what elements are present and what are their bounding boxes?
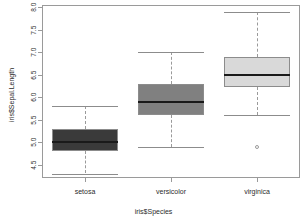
whisker-upper-versicolor [171, 52, 172, 83]
y-tick-mark [38, 52, 42, 53]
x-axis-title: iris$Species [0, 208, 307, 215]
whisker-upper-virginica [257, 12, 258, 57]
y-tick-mark [38, 30, 42, 31]
y-tick-label: 7.5 [31, 21, 38, 39]
y-tick-label: 5.5 [31, 111, 38, 129]
cap-lower-setosa [52, 174, 118, 175]
median-line-setosa [52, 141, 118, 143]
y-tick-mark [38, 97, 42, 98]
box-virginica [224, 57, 290, 87]
outlier-point-virginica [255, 145, 259, 149]
whisker-lower-setosa [85, 151, 86, 173]
y-tick-mark [38, 7, 42, 8]
y-tick-label: 7.0 [31, 43, 38, 61]
median-line-virginica [224, 74, 290, 76]
x-tick-mark [85, 178, 86, 182]
cap-lower-virginica [224, 115, 290, 116]
boxplot-figure: 8.07.57.06.56.05.55.04.5 setosaversicolo… [0, 0, 307, 219]
box-versicolor [138, 84, 204, 115]
x-tick-mark [257, 178, 258, 182]
whisker-lower-virginica [257, 87, 258, 115]
cap-upper-versicolor [138, 52, 204, 53]
y-tick-mark [38, 120, 42, 121]
y-tick-mark [38, 75, 42, 76]
y-axis-title: iris$Sepal.Length [8, 67, 15, 121]
y-tick-mark [38, 142, 42, 143]
x-tick-label-virginica: virginica [217, 188, 297, 195]
x-tick-label-versicolor: versicolor [131, 188, 211, 195]
x-tick-mark [171, 178, 172, 182]
y-tick-label: 5.0 [31, 133, 38, 151]
median-line-versicolor [138, 101, 204, 103]
y-tick-label: 6.5 [31, 66, 38, 84]
y-tick-label: 8.0 [31, 0, 38, 16]
y-tick-mark [38, 165, 42, 166]
whisker-lower-versicolor [171, 115, 172, 146]
whisker-upper-setosa [85, 106, 86, 128]
x-tick-label-setosa: setosa [45, 188, 125, 195]
cap-upper-virginica [224, 12, 290, 13]
y-tick-label: 6.0 [31, 88, 38, 106]
cap-lower-versicolor [138, 147, 204, 148]
cap-upper-setosa [52, 106, 118, 107]
box-setosa [52, 129, 118, 151]
y-tick-label: 4.5 [31, 156, 38, 174]
